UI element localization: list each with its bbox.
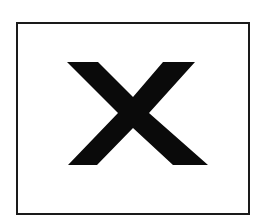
close-icon [0,0,266,224]
